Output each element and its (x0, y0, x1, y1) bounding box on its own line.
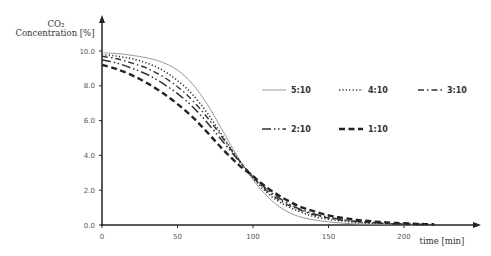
x-tick-label: 200 (397, 233, 410, 241)
legend-item-4-10: 4:10 (339, 86, 388, 95)
x-tick-label: 100 (246, 233, 259, 241)
legend-item-2-10: 2:10 (262, 125, 311, 134)
co2-concentration-chart: CO₂ Concentration [%] time [min] 0.02.04… (0, 0, 491, 256)
series-line-3-10 (102, 56, 434, 225)
x-axis-arrow-icon (473, 222, 481, 228)
legend-item-1-10: 1:10 (339, 125, 388, 134)
legend-label: 1:10 (368, 125, 388, 134)
y-ticks: 0.02.04.06.08.010.0 (79, 48, 102, 230)
x-tick-label: 0 (100, 233, 104, 241)
data-series (102, 53, 434, 225)
series-line-5-10 (102, 53, 434, 225)
series-line-4-10 (102, 55, 434, 225)
x-ticks: 050100150200 (100, 225, 411, 241)
legend-item-5-10: 5:10 (262, 86, 311, 95)
x-tick-label: 150 (322, 233, 335, 241)
y-tick-label: 0.0 (84, 222, 95, 230)
legend-label: 4:10 (368, 86, 388, 95)
legend-label: 5:10 (291, 86, 311, 95)
legend-label: 3:10 (447, 86, 467, 95)
x-tick-label: 50 (173, 233, 182, 241)
series-line-2-10 (102, 60, 434, 225)
legend-label: 2:10 (291, 125, 311, 134)
y-axis-arrow-icon (99, 15, 105, 23)
y-tick-label: 10.0 (79, 48, 95, 56)
legend: 5:104:103:102:101:10 (262, 86, 467, 134)
y-tick-label: 4.0 (84, 152, 95, 160)
y-axis-title-line2: Concentration [%] (15, 28, 94, 38)
x-axis-title: time [min] (420, 236, 465, 246)
y-tick-label: 2.0 (84, 187, 95, 195)
axes (99, 15, 481, 228)
y-tick-label: 6.0 (84, 117, 95, 125)
y-tick-label: 8.0 (84, 82, 95, 90)
legend-item-3-10: 3:10 (418, 86, 467, 95)
